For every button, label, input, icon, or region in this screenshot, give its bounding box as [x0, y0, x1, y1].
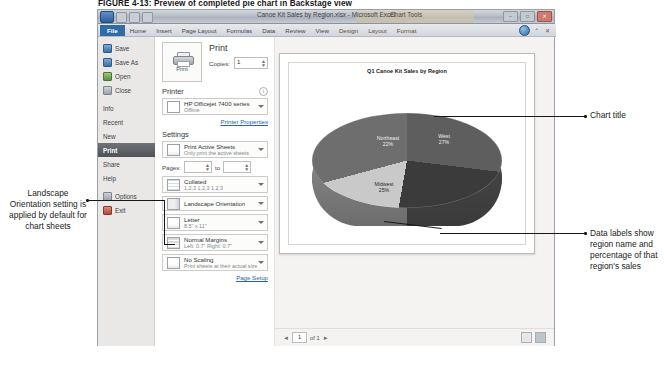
- orientation-title: Landscape Orientation: [184, 200, 245, 207]
- excel-window: Canoe Kit Sales by Region.xlsx - Microso…: [97, 9, 555, 346]
- stepper-up-icon[interactable]: ▲▼: [261, 59, 266, 67]
- collation-title: Collated: [184, 178, 223, 185]
- print-settings-pane: Print Print Copies: 1 ▲▼: [155, 37, 275, 346]
- close-document-icon: [103, 86, 112, 95]
- printer-properties-link[interactable]: Printer Properties: [162, 118, 268, 125]
- pie-label-northeast: Northeast22%: [364, 135, 412, 147]
- chart-area-border: Q1 Canoe Kit Sales by Region Northeast22…: [288, 62, 526, 245]
- next-page-icon[interactable]: ►: [323, 335, 329, 341]
- copies-stepper[interactable]: 1 ▲▼: [234, 57, 268, 69]
- title-bar: Canoe Kit Sales by Region.xlsx - Microso…: [98, 10, 554, 24]
- help-icon[interactable]: [519, 25, 530, 36]
- print-what-select[interactable]: Print Active Sheets Only print the activ…: [162, 141, 268, 158]
- chevron-down-icon[interactable]: [258, 148, 264, 151]
- minimize-button[interactable]: –: [503, 11, 518, 22]
- figure-page: FIGURE 4-13: Preview of completed pie ch…: [0, 0, 664, 372]
- window-controls[interactable]: – □ ✕: [503, 11, 552, 22]
- margins-select[interactable]: Normal Margins Left: 0.7" Right: 0.7": [162, 234, 268, 251]
- printer-select[interactable]: HP Officejet 7400 series Offline: [162, 98, 268, 115]
- tab-formulas[interactable]: Formulas: [221, 26, 257, 36]
- print-what-title: Print Active Sheets: [184, 143, 249, 150]
- sidebar-item-print[interactable]: Print: [98, 143, 159, 157]
- tab-design[interactable]: Design: [334, 26, 363, 36]
- sidebar-item-share[interactable]: Share: [98, 157, 154, 171]
- callout-br-leader: [440, 233, 585, 234]
- margins-subtitle: Left: 0.7" Right: 0.7": [184, 243, 232, 249]
- pages-to-label: to: [215, 164, 220, 171]
- scaling-select[interactable]: No Scaling Print sheets at their actual …: [162, 254, 268, 271]
- chevron-down-icon[interactable]: [258, 183, 264, 186]
- sidebar-item-label: New: [103, 133, 116, 140]
- pages-to-input[interactable]: ▲▼: [223, 161, 251, 173]
- tab-view[interactable]: View: [311, 26, 334, 36]
- sidebar-item-save-as[interactable]: Save As: [98, 55, 154, 69]
- pages-label: Pages:: [162, 164, 181, 171]
- chevron-down-icon[interactable]: [258, 261, 264, 264]
- sheet-icon: [167, 144, 180, 156]
- margins-icon: [167, 237, 180, 249]
- paper-size-select[interactable]: Letter 8.5" x 11": [162, 214, 268, 231]
- tab-insert[interactable]: Insert: [151, 26, 176, 36]
- restore-button[interactable]: □: [520, 11, 535, 22]
- tab-layout[interactable]: Layout: [363, 26, 392, 36]
- scaling-subtitle: Print sheets at their actual size: [184, 263, 257, 269]
- print-button[interactable]: Print: [162, 42, 202, 82]
- tab-file[interactable]: File: [100, 25, 125, 36]
- chevron-down-icon[interactable]: [258, 105, 264, 108]
- sidebar-item-save[interactable]: Save: [98, 41, 154, 55]
- tab-page-layout[interactable]: Page Layout: [177, 26, 222, 36]
- sidebar-item-new[interactable]: New: [98, 129, 154, 143]
- stepper-icon[interactable]: ▲▼: [244, 163, 249, 171]
- ribbon-tab-strip[interactable]: File Home Insert Page Layout Formulas Da…: [98, 24, 556, 37]
- pie-label-west: West27%: [424, 133, 464, 145]
- settings-section-label: Settings: [162, 130, 268, 139]
- print-what-subtitle: Only print the active sheets: [184, 150, 249, 156]
- sidebar-item-label: Open: [115, 73, 130, 80]
- current-page-input[interactable]: 1: [292, 332, 307, 343]
- chevron-down-icon[interactable]: [258, 202, 264, 205]
- preview-zoom-controls[interactable]: [521, 332, 546, 343]
- orientation-select[interactable]: Landscape Orientation: [162, 196, 268, 211]
- chevron-down-icon[interactable]: [258, 241, 264, 244]
- page-count-label: of 1: [310, 335, 320, 341]
- page-setup-link[interactable]: Page Setup: [162, 274, 268, 281]
- callout-left-leader: [88, 200, 165, 201]
- page-stepper[interactable]: ◄ 1 of 1 ►: [283, 332, 329, 343]
- tab-format[interactable]: Format: [392, 26, 422, 36]
- tab-review[interactable]: Review: [280, 26, 310, 36]
- show-margins-icon[interactable]: [535, 332, 546, 343]
- sidebar-item-open[interactable]: Open: [98, 69, 154, 83]
- pie-label-midwest: Midwest25%: [360, 181, 408, 193]
- printer-section: Printer i: [162, 87, 268, 96]
- print-heading: Print: [209, 43, 268, 53]
- previous-page-icon[interactable]: ◄: [283, 335, 289, 341]
- tab-home[interactable]: Home: [125, 26, 152, 36]
- pages-from-input[interactable]: ▲▼: [184, 161, 212, 173]
- zoom-to-page-icon[interactable]: [521, 332, 532, 343]
- ribbon-minimize-icon[interactable]: ⌃ ✕: [534, 27, 552, 34]
- collation-select[interactable]: Collated 1,2,3 1,2,3 1,2,3: [162, 176, 268, 193]
- info-icon[interactable]: i: [259, 87, 268, 96]
- collation-subtitle: 1,2,3 1,2,3 1,2,3: [184, 185, 223, 191]
- tab-data[interactable]: Data: [257, 26, 280, 36]
- sidebar-item-close[interactable]: Close: [98, 83, 154, 97]
- chart-title: Q1 Canoe Kit Sales by Region: [289, 68, 525, 74]
- sidebar-item-label: Info: [103, 105, 114, 112]
- sidebar-item-exit[interactable]: Exit: [98, 203, 154, 217]
- callout-left-leader-vertical: [164, 200, 165, 245]
- sidebar-item-label: Help: [103, 175, 116, 182]
- sidebar-item-info[interactable]: Info: [98, 101, 154, 115]
- sidebar-item-recent[interactable]: Recent: [98, 115, 154, 129]
- backstage-nav[interactable]: Save Save As Open Close Info: [98, 37, 155, 346]
- sidebar-item-help[interactable]: Help: [98, 171, 154, 185]
- close-button[interactable]: ✕: [537, 11, 552, 22]
- callout-landscape-orientation: Landscape Orientation setting is applied…: [6, 188, 90, 232]
- preview-page-navigation[interactable]: ◄ 1 of 1 ►: [275, 328, 554, 346]
- chevron-down-icon[interactable]: [258, 221, 264, 224]
- scaling-icon: [167, 257, 180, 269]
- sidebar-item-label: Print: [103, 147, 117, 154]
- pie-chart: Northeast22% West27% Midwest25%: [312, 113, 502, 233]
- print-header-row: Print Print Copies: 1 ▲▼: [162, 42, 268, 82]
- pages-range-row: Pages: ▲▼ to ▲▼: [162, 161, 268, 173]
- stepper-icon[interactable]: ▲▼: [205, 163, 210, 171]
